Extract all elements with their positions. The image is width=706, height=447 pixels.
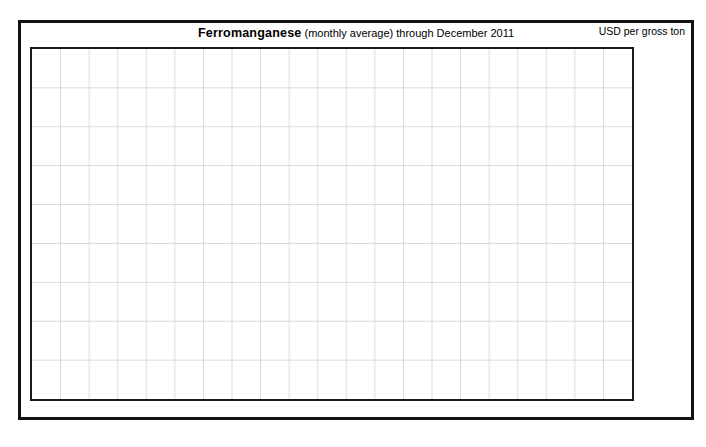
plot-frame (30, 47, 634, 401)
plot-area (32, 49, 632, 399)
chart-page: Ferromanganese (monthly average) through… (0, 0, 706, 447)
units-label: USD per gross ton (599, 25, 685, 37)
page-title: Ferromanganese (monthly average) through… (21, 26, 691, 40)
title-main: Ferromanganese (198, 26, 302, 40)
chart-header: Ferromanganese (monthly average) through… (21, 23, 691, 43)
x-axis-labels (30, 404, 634, 422)
title-subtitle: (monthly average) through December 2011 (301, 27, 514, 39)
gridlines (32, 49, 632, 399)
chart-canvas (32, 49, 632, 399)
y-axis-labels (640, 47, 700, 401)
